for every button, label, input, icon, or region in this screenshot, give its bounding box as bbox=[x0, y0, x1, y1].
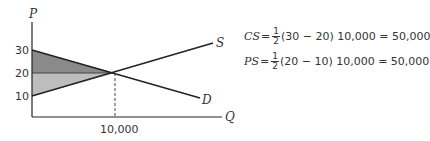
x-axis-label: Q bbox=[225, 110, 235, 124]
cs-equation: CS = 12 (30 − 20) 10,000 = 50,000 bbox=[244, 27, 430, 46]
fraction-half: 12 bbox=[271, 52, 279, 71]
y-tick-30: 30 bbox=[15, 44, 29, 57]
y-tick-20: 20 bbox=[15, 67, 29, 80]
supply-label: S bbox=[216, 36, 224, 50]
y-axis-label: P bbox=[28, 7, 38, 21]
demand-label: D bbox=[201, 93, 212, 107]
y-tick-10: 10 bbox=[15, 90, 29, 103]
fraction-half: 12 bbox=[272, 27, 280, 46]
x-tick-10000: 10,000 bbox=[100, 123, 139, 136]
ps-equation: PS = 12 (20 − 10) 10,000 = 50,000 bbox=[244, 52, 429, 71]
